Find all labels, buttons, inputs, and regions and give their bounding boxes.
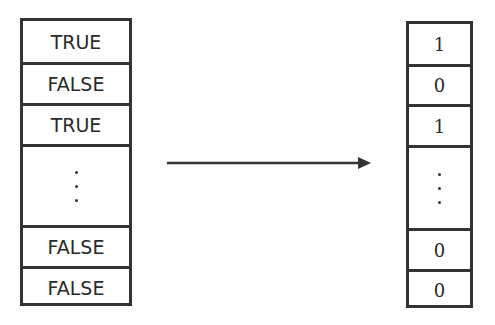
arrow-head-icon bbox=[358, 157, 371, 169]
cell-value: 1 bbox=[434, 116, 445, 137]
numeric-cell: 0 bbox=[409, 64, 470, 104]
cell-value: 0 bbox=[434, 75, 445, 96]
vertical-ellipsis-icon bbox=[438, 173, 441, 204]
numeric-cell: 1 bbox=[409, 24, 470, 64]
cell-value: 0 bbox=[434, 280, 445, 301]
cell-value: 1 bbox=[434, 34, 445, 55]
numeric-cell: 1 bbox=[409, 104, 470, 145]
numeric-cell: 0 bbox=[409, 269, 470, 308]
numeric-cell: 0 bbox=[409, 228, 470, 269]
cell-value: 0 bbox=[434, 240, 445, 261]
numeric-vector-column: 1 0 1 0 0 bbox=[406, 21, 473, 308]
ellipsis-cell bbox=[409, 145, 470, 228]
